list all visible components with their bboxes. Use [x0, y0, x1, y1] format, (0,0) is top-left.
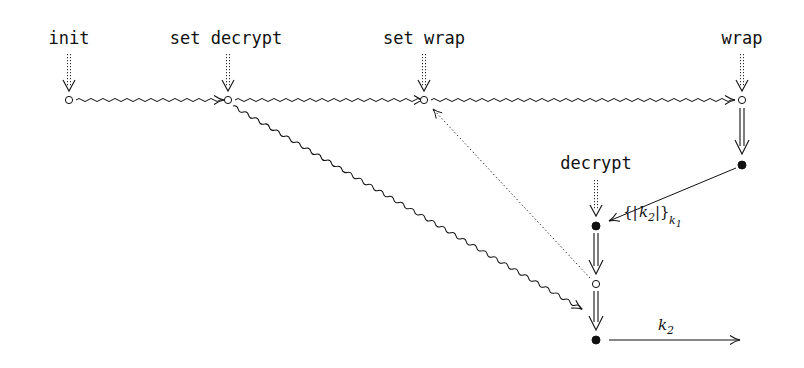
strand-space-diagram: init set decrypt set wrap wrap decrypt: [0, 0, 804, 368]
strand-start-init: [68, 54, 71, 86]
label-set-decrypt: set decrypt: [170, 28, 283, 48]
arrowhead-wrap: [736, 80, 748, 91]
node-wrap-transmit: [738, 161, 746, 169]
svg-text:|}: |}: [655, 203, 670, 221]
wavy-arrow-set-wrap-to-wrap: [431, 99, 735, 102]
svg-text:2: 2: [666, 324, 674, 337]
double-arrow-decrypt-2: [589, 291, 603, 330]
label-wrap: wrap: [722, 28, 763, 48]
label-init: init: [49, 28, 90, 48]
arrowhead-set-decrypt: [222, 80, 234, 91]
svg-text:{|: {|: [623, 203, 638, 221]
label-decrypt: decrypt: [560, 153, 632, 173]
node-wrap-receive: [738, 96, 745, 103]
double-arrow-wrap: [735, 108, 749, 154]
svg-text:k: k: [669, 214, 676, 227]
svg-text:1: 1: [676, 219, 682, 229]
wavy-arrow-set-decrypt-to-decrypt: [232, 105, 583, 311]
svg-text:k: k: [658, 316, 667, 334]
arrowhead-init: [63, 80, 75, 91]
strand-start-set-wrap: [423, 54, 426, 86]
strand-start-wrap: [741, 54, 744, 86]
arrowhead-decrypt: [590, 205, 602, 216]
double-arrow-decrypt-1: [589, 233, 603, 274]
strand-start-set-decrypt: [227, 54, 230, 86]
node-set-wrap: [420, 96, 427, 103]
label-output-key: k 2: [658, 316, 674, 337]
arrowhead-set-wrap: [418, 80, 430, 91]
node-decrypt-receive: [592, 222, 600, 230]
label-set-wrap: set wrap: [383, 28, 465, 48]
dotted-arrow-decrypt-to-set-wrap: [433, 109, 590, 278]
node-init: [65, 96, 72, 103]
svg-text:2: 2: [647, 211, 655, 224]
strand-start-decrypt: [595, 180, 598, 210]
node-decrypt-transmit: [592, 336, 600, 344]
wavy-arrow-set-decrypt-to-set-wrap: [235, 99, 424, 102]
node-decrypt-state: [592, 280, 599, 287]
label-wrapped-key: {| k 2 |} k 1: [623, 203, 682, 229]
node-set-decrypt: [224, 96, 231, 103]
wavy-arrow-init-to-set-decrypt: [76, 99, 224, 102]
svg-text:k: k: [639, 203, 648, 221]
